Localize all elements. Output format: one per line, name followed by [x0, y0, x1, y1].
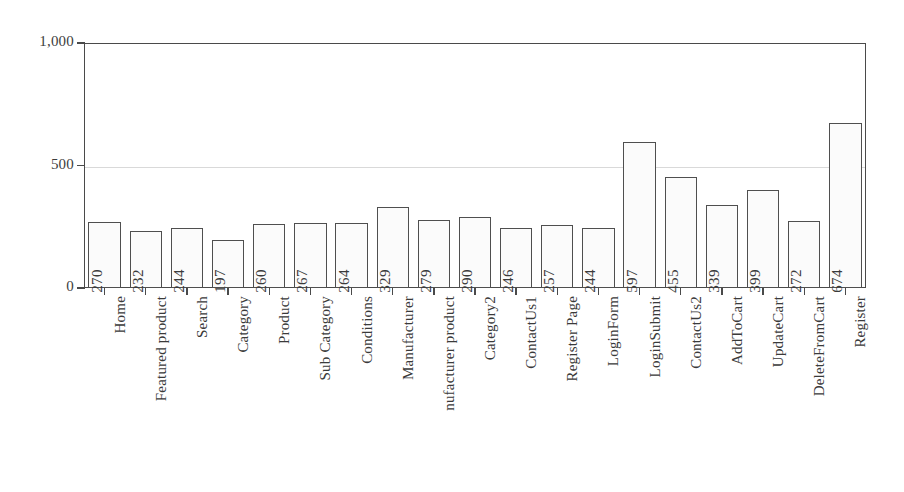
bar: 399	[747, 190, 779, 288]
bar: 244	[171, 228, 203, 288]
x-category-label-text: ContactUs2	[688, 296, 703, 369]
y-tick-label: 0	[0, 278, 74, 295]
x-category-label: ContactUs1	[516, 296, 531, 369]
x-tick-mark	[145, 288, 146, 295]
x-category-label-text: Manufacturer	[400, 296, 415, 380]
x-category-label: UpdateCart	[763, 296, 778, 367]
bar: 197	[212, 240, 244, 288]
bar: 246	[500, 228, 532, 288]
bar: 232	[130, 231, 162, 288]
x-tick-mark	[639, 288, 640, 295]
x-tick-mark	[269, 288, 270, 295]
x-tick-mark	[104, 288, 105, 295]
x-tick-mark	[680, 288, 681, 295]
bars-layer: 2702322441972602672643292792902462572445…	[84, 43, 866, 288]
x-category-label-text: Featured product	[153, 296, 168, 401]
x-tick-mark	[762, 288, 763, 295]
bar: 272	[788, 221, 820, 288]
bar-chart-figure: 05001,000 270232244197260267264329279290…	[0, 0, 904, 492]
bar: 455	[665, 177, 697, 288]
x-category-label: Category	[228, 296, 243, 353]
bar: 329	[377, 207, 409, 288]
x-category-label-text: LoginSubmit	[647, 296, 662, 377]
x-tick-mark	[433, 288, 434, 295]
x-category-label-text: Home	[112, 296, 127, 333]
x-tick-mark	[351, 288, 352, 295]
bar: 264	[335, 223, 367, 288]
x-tick-mark	[227, 288, 228, 295]
x-category-label: Featured product	[146, 296, 161, 401]
bar: 260	[253, 224, 285, 288]
x-category-label-text: Search	[194, 296, 209, 338]
x-category-label: Register	[845, 296, 860, 348]
x-tick-mark	[392, 288, 393, 295]
bar: 267	[294, 223, 326, 288]
x-category-label-text: Sub Category	[318, 296, 333, 380]
x-category-label-text: Product	[277, 296, 292, 344]
bar: 257	[541, 225, 573, 288]
x-category-label: ContactUs2	[681, 296, 696, 369]
y-axis: 05001,000	[0, 0, 78, 492]
x-category-label: DeleteFromCart	[804, 296, 819, 396]
x-category-label-text: AddToCart	[729, 296, 744, 365]
x-category-label-text: DeleteFromCart	[812, 296, 827, 396]
x-category-label: Register Page	[557, 296, 572, 382]
x-tick-mark	[310, 288, 311, 295]
x-tick-mark	[515, 288, 516, 295]
x-category-label: LoginSubmit	[640, 296, 655, 377]
x-category-label-text: Category	[236, 296, 251, 353]
bar: 244	[582, 228, 614, 288]
x-category-label-text: Category2	[483, 296, 498, 360]
x-category-label-text: UpdateCart	[771, 296, 786, 367]
x-tick-mark	[598, 288, 599, 295]
x-tick-mark	[474, 288, 475, 295]
x-category-label: Category2	[475, 296, 490, 360]
bar: 339	[706, 205, 738, 288]
x-category-label-text: Conditions	[359, 296, 374, 364]
x-tick-mark	[557, 288, 558, 295]
x-category-label: Sub Category	[310, 296, 325, 380]
x-tick-mark	[721, 288, 722, 295]
bar: 290	[459, 217, 491, 288]
bar: 597	[623, 142, 655, 288]
x-category-label: Home	[105, 296, 120, 333]
x-category-label-text: Register Page	[565, 296, 580, 382]
y-tick-label: 1,000	[0, 33, 74, 50]
x-category-label: AddToCart	[722, 296, 737, 365]
bar: 674	[829, 123, 861, 288]
x-category-label: nufacturer product	[434, 296, 449, 411]
bar: 270	[88, 222, 120, 288]
x-axis-labels: HomeFeatured productSearchCategoryProduc…	[84, 296, 866, 486]
x-category-label-text: nufacturer product	[441, 296, 456, 411]
x-tick-mark	[845, 288, 846, 295]
x-category-label: Product	[269, 296, 284, 344]
x-category-label: Conditions	[352, 296, 367, 364]
y-tick-label: 500	[0, 156, 74, 173]
x-category-label-text: Register	[853, 296, 868, 348]
x-category-label-text: ContactUs1	[524, 296, 539, 369]
x-category-label-text: LoginForm	[606, 296, 621, 366]
x-category-label: LoginForm	[598, 296, 613, 366]
bar: 279	[418, 220, 450, 288]
x-category-label: Search	[187, 296, 202, 338]
x-tick-mark	[804, 288, 805, 295]
x-tick-mark	[186, 288, 187, 295]
x-category-label: Manufacturer	[393, 296, 408, 380]
